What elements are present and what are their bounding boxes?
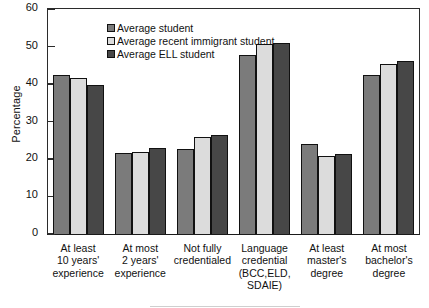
bar	[194, 137, 211, 235]
legend-item-average-student: Average student	[107, 22, 274, 34]
bar-group	[48, 9, 110, 234]
x-axis-label: At most2 years'experience	[109, 242, 171, 292]
y-axis-title: Percentage	[10, 54, 22, 174]
bar	[380, 64, 397, 234]
bar	[132, 152, 149, 235]
bar	[318, 156, 335, 234]
plot-area: 0 10 20 30 40 50 60 Average student	[47, 8, 420, 235]
bar	[256, 44, 273, 235]
bar	[53, 75, 70, 234]
bar-group	[295, 9, 357, 234]
bar	[211, 135, 228, 234]
chart-legend: Average student Average recent immigrant…	[107, 22, 274, 61]
bar	[301, 144, 318, 234]
x-axis-label: Not fullycredentialed	[171, 242, 233, 292]
x-axis-label: Languagecredential(BCC,ELD,SDAIE)	[234, 242, 296, 292]
legend-label: Average recent immigrant student	[117, 35, 274, 47]
footer-rule	[150, 306, 300, 307]
legend-label: Average ELL student	[117, 48, 215, 60]
bar	[363, 75, 380, 234]
bar-group	[357, 9, 419, 234]
bar	[115, 153, 132, 234]
legend-item-recent-immigrant-student: Average recent immigrant student	[107, 35, 274, 47]
bar	[335, 154, 352, 234]
bar	[177, 149, 194, 235]
bar	[397, 61, 414, 234]
bar	[239, 55, 256, 234]
bar	[70, 78, 87, 234]
bar	[149, 148, 166, 234]
x-axis-label: At mostbachelor'sdegree	[358, 242, 420, 292]
legend-swatch-icon	[107, 24, 115, 32]
legend-swatch-icon	[107, 37, 115, 45]
legend-swatch-icon	[107, 50, 115, 58]
bar-chart: Percentage 0 10 20 30 40 50 60 Av	[0, 0, 429, 308]
x-axis-label: At leastmaster'sdegree	[296, 242, 358, 292]
legend-label: Average student	[117, 22, 193, 34]
bar	[273, 43, 290, 234]
legend-item-ell-student: Average ELL student	[107, 48, 274, 60]
x-axis-label: At least10 years'experience	[47, 242, 109, 292]
bar	[87, 85, 104, 234]
x-axis-category-labels: At least10 years'experienceAt most2 year…	[47, 242, 420, 292]
